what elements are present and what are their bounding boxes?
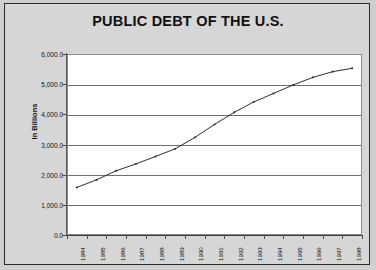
x-tick-label: 1989 — [178, 247, 185, 261]
x-tick-label: 1984 — [79, 247, 86, 261]
data-point-marker — [194, 137, 196, 139]
x-tick-mark — [264, 235, 265, 239]
x-tick-label: 1990 — [197, 247, 204, 261]
y-tick-mark — [62, 205, 67, 206]
y-tick-mark — [62, 175, 67, 176]
y-tick-mark — [62, 54, 67, 55]
x-tick-mark — [87, 235, 88, 239]
y-tick-label: 5,000.0 — [17, 81, 63, 88]
data-point-marker — [312, 76, 314, 78]
y-tick-label: 3,000.0 — [17, 141, 63, 148]
x-tick-mark — [185, 235, 186, 239]
data-point-marker — [174, 148, 176, 150]
data-point-marker — [214, 124, 216, 126]
data-point-marker — [76, 187, 78, 189]
x-tick-label: 1995 — [296, 247, 303, 261]
x-tick-mark — [205, 235, 206, 239]
y-tick-label: 0.0 — [17, 232, 63, 239]
x-tick-label: 1985 — [99, 247, 106, 261]
x-tick-label: 1987 — [138, 247, 145, 261]
x-tick-mark — [362, 235, 363, 239]
x-tick-label: 1992 — [237, 247, 244, 261]
x-tick-mark — [342, 235, 343, 239]
x-tick-label: 1996 — [315, 247, 322, 261]
x-tick-mark — [146, 235, 147, 239]
x-tick-mark — [323, 235, 324, 239]
y-tick-label: 1,000.0 — [17, 201, 63, 208]
x-axis-labels: 1984198519861987198819891990199119921993… — [67, 237, 362, 270]
x-tick-label: 1997 — [335, 247, 342, 261]
series-polyline — [77, 68, 352, 187]
y-tick-mark — [62, 114, 67, 115]
x-tick-label: 1993 — [256, 247, 263, 261]
data-point-marker — [96, 179, 98, 181]
x-tick-mark — [303, 235, 304, 239]
data-point-marker — [273, 93, 275, 95]
chart-frame: PUBLIC DEBT OF THE U.S. In Billions 0.01… — [4, 3, 370, 265]
x-tick-mark — [244, 235, 245, 239]
x-tick-mark — [224, 235, 225, 239]
x-tick-label: 1986 — [119, 247, 126, 261]
y-tick-label: 2,000.0 — [17, 171, 63, 178]
data-point-marker — [332, 71, 334, 73]
x-tick-label: 1988 — [158, 247, 165, 261]
y-axis-labels: 0.01,000.02,000.03,000.04,000.05,000.06,… — [13, 4, 63, 270]
data-point-marker — [351, 67, 353, 69]
x-tick-mark — [165, 235, 166, 239]
x-tick-mark — [67, 235, 68, 239]
y-tick-label: 4,000.0 — [17, 111, 63, 118]
x-axis-line — [66, 235, 363, 236]
data-series-line — [67, 54, 362, 235]
x-tick-mark — [106, 235, 107, 239]
data-point-marker — [292, 84, 294, 86]
x-tick-label: 1991 — [217, 247, 224, 261]
x-tick-mark — [126, 235, 127, 239]
y-tick-mark — [62, 84, 67, 85]
x-tick-label: 1994 — [276, 247, 283, 261]
data-point-marker — [135, 163, 137, 165]
data-point-marker — [155, 156, 157, 158]
data-point-marker — [115, 170, 117, 172]
x-tick-label: 1998 — [355, 247, 362, 261]
y-tick-mark — [62, 145, 67, 146]
y-tick-label: 6,000.0 — [17, 51, 63, 58]
data-point-marker — [233, 111, 235, 113]
x-tick-mark — [283, 235, 284, 239]
data-point-marker — [253, 101, 255, 103]
